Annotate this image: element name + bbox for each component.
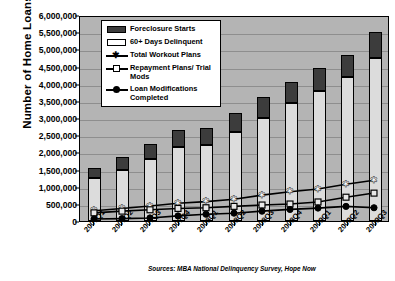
marker-filled-circle — [371, 205, 377, 211]
legend-item: 60+ Days Delinquent — [106, 38, 217, 47]
marker-open-square — [231, 203, 237, 209]
legend-open-square-marker-icon — [113, 65, 120, 72]
y-axis-tick-label: 6,000,000 — [0, 11, 77, 21]
legend-item: ✱Total Workout Plans — [106, 51, 217, 60]
legend-item: Foreclosure Starts — [106, 25, 217, 34]
legend-item-label: Total Workout Plans — [130, 51, 217, 60]
swatch-dark-icon — [107, 26, 126, 33]
y-axis-tick-label: 1,000,000 — [0, 183, 77, 193]
marker-open-square — [343, 194, 349, 200]
y-axis-tick-label: 5,500,000 — [0, 28, 77, 38]
legend-item-label: Foreclosure Starts — [130, 25, 217, 34]
marker-open-square — [203, 205, 209, 211]
marker-star: ✱ — [286, 186, 294, 196]
legend-item-label: Loan Modifications Completed — [130, 85, 217, 102]
legend-item-label: Repayment Plans/ Trial Mods — [130, 64, 217, 81]
y-axis-tick-label: 5,000,000 — [0, 45, 77, 55]
marker-star: ✱ — [370, 175, 378, 185]
marker-open-square — [371, 190, 377, 196]
legend-key-repayment-plans — [106, 64, 128, 73]
y-axis-tick-label: 4,000,000 — [0, 80, 77, 90]
legend-key-total-workout-plans: ✱ — [106, 51, 128, 60]
y-axis-tick-label: 1,500,000 — [0, 166, 77, 176]
marker-open-square — [175, 205, 181, 211]
legend-key-loan-modifications — [106, 85, 128, 94]
marker-open-square — [315, 199, 321, 205]
marker-filled-circle — [343, 203, 349, 209]
marker-star: ✱ — [258, 190, 266, 200]
marker-open-square — [259, 202, 265, 208]
legend-star-marker-icon: ✱ — [112, 52, 119, 59]
legend-swatch-foreclosure-icon — [106, 25, 128, 34]
marker-filled-circle — [315, 205, 321, 211]
legend-item-label: 60+ Days Delinquent — [130, 38, 217, 47]
y-axis-tick-label: 2,500,000 — [0, 131, 77, 141]
chart-container: Number of Home Loans 0500,0001,000,0001,… — [0, 0, 395, 281]
y-axis-tick-label: 4,500,000 — [0, 63, 77, 73]
legend-item: Loan Modifications Completed — [106, 85, 217, 102]
legend-item: Repayment Plans/ Trial Mods — [106, 64, 217, 81]
legend-filled-circle-marker-icon — [113, 86, 120, 93]
marker-star: ✱ — [314, 184, 322, 194]
chart-legend: Foreclosure Starts60+ Days Delinquent✱To… — [101, 20, 221, 107]
y-axis-tick-label: 2,000,000 — [0, 148, 77, 158]
swatch-light-icon — [107, 39, 126, 46]
source-note: Sources: MBA National Delinquency Survey… — [148, 265, 316, 272]
y-axis-tick-label: 3,000,000 — [0, 114, 77, 124]
legend-swatch-delinquent-icon — [106, 38, 128, 47]
marker-star: ✱ — [342, 179, 350, 189]
y-axis-tick-label: 500,000 — [0, 200, 77, 210]
y-axis-tick-label: 3,500,000 — [0, 97, 77, 107]
y-axis-tick-label: 0 — [0, 217, 77, 227]
marker-star: ✱ — [230, 194, 238, 204]
